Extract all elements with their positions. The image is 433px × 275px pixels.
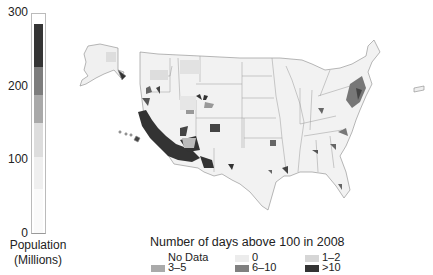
population-label: Population (2, 238, 74, 253)
legend-swatch-3-5 (151, 265, 165, 272)
legend-swatch-6-10 (235, 265, 249, 272)
legend-swatch-gt10 (305, 265, 319, 272)
legend-title: Number of days above 100 in 2008 (150, 235, 345, 249)
legend-swatch-0 (235, 255, 249, 262)
puerto-rico (414, 86, 424, 92)
us-map (0, 0, 433, 230)
contiguous-us (140, 40, 380, 210)
legend-label-gt10: >10 (322, 261, 341, 273)
legend-item-gt10: >10 (305, 262, 341, 272)
hawaii (134, 136, 140, 142)
population-axis-title: Population (Millions) (2, 238, 74, 268)
legend-item-6-10: 6–10 (235, 262, 276, 272)
population-units-label: (Millions) (2, 253, 74, 268)
legend-swatch-1-2 (305, 255, 319, 262)
legend-label-6-10: 6–10 (252, 261, 276, 273)
legend-swatch-nodata (151, 255, 165, 262)
legend-label-3-5: 3–5 (168, 261, 186, 273)
alaska (80, 44, 124, 86)
legend-item-3-5: 3–5 (151, 262, 186, 272)
